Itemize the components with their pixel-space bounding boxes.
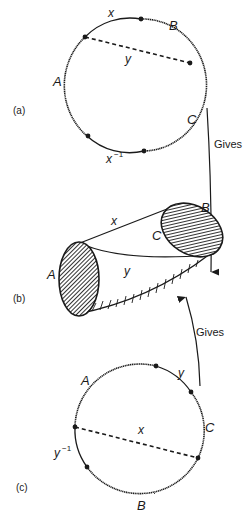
panel-label-c: (c) [16, 482, 28, 493]
panel-label-b: (b) [13, 293, 25, 304]
arrow-up-icon [186, 297, 200, 386]
vertex-label-a: A [80, 373, 90, 388]
arrow-gives-up: Gives [186, 297, 225, 386]
vertex-label-a: A [46, 267, 56, 282]
vertex-label-b: B [137, 498, 146, 513]
edge-wavy-right [141, 19, 206, 151]
vertex-dot [188, 61, 193, 66]
panel-c: A y C x y −1 (c) B [16, 364, 215, 513]
edge-label-x: x [110, 214, 118, 228]
edge-wavy-left [64, 37, 87, 136]
vertex-dot [83, 35, 88, 40]
edge-y-top-right [156, 366, 191, 392]
edge-label-x: x [137, 423, 145, 437]
panel-label-a: (a) [13, 105, 25, 116]
vertex-dot [142, 149, 147, 154]
panel-a: x B y A C x −1 (a) [13, 6, 206, 166]
edge-label-x-inverse: x [105, 152, 113, 166]
chord-x [75, 427, 198, 458]
vertex-label-c: C [152, 228, 162, 243]
vertex-dot [139, 17, 144, 22]
panel-b: x B C A y (b) [13, 192, 233, 316]
edge-label-y: y [124, 52, 132, 66]
vertex-label-c: C [187, 112, 197, 127]
vertex-dot [154, 364, 159, 369]
vertex-label-b: B [169, 18, 178, 33]
vertex-label-c: C [205, 420, 215, 435]
vertex-label-a: A [52, 74, 62, 89]
vertex-dot [85, 465, 90, 470]
edge-label-x: x [107, 6, 115, 20]
edge-label-y-inverse-exponent: −1 [62, 444, 72, 453]
vertex-dot [189, 390, 194, 395]
tube-shading [92, 260, 198, 311]
gluing-diagram: x B y A C x −1 (a) Gives [0, 0, 251, 521]
vertex-dot [73, 425, 78, 430]
edge-wavy-right [191, 392, 204, 458]
edge-label-x-inverse-exponent: −1 [114, 150, 124, 159]
edge-wavy-bottom [87, 458, 198, 494]
gives-label-top: Gives [214, 138, 243, 150]
vertex-label-b: B [201, 200, 210, 215]
chord-y [85, 37, 190, 63]
edge-y-inverse-left [75, 427, 87, 467]
gives-label-bottom: Gives [196, 326, 225, 338]
vertex-dot [196, 456, 201, 461]
boundary-disk-a [59, 242, 99, 316]
vertex-dot [86, 134, 91, 139]
edge-label-y: y [123, 264, 131, 278]
edge-label-y-inverse: y [53, 446, 61, 460]
edge-label-y: y [177, 366, 185, 380]
edge-x-top [85, 18, 141, 37]
